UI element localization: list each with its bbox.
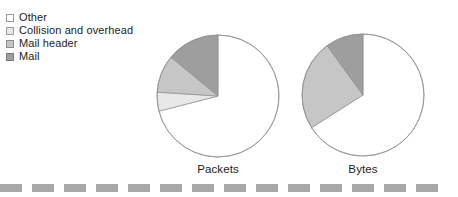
dash-segment	[224, 184, 246, 192]
footer-dashed-rule	[0, 184, 458, 192]
dash-segment	[352, 184, 374, 192]
pie-caption-bytes: Bytes	[283, 163, 443, 175]
legend: Other Collision and overhead Mail header…	[6, 11, 156, 63]
legend-label-other: Other	[19, 11, 47, 24]
pie-caption-packets: Packets	[138, 163, 298, 175]
dash-segment	[128, 184, 150, 192]
pie-packets-svg	[156, 34, 280, 158]
dash-segment	[192, 184, 214, 192]
dash-segment	[416, 184, 438, 192]
legend-item-mail-header: Mail header	[6, 37, 156, 50]
legend-swatch-mail-header	[6, 40, 14, 48]
figure-root: Other Collision and overhead Mail header…	[0, 0, 458, 197]
legend-item-collision-and-overhead: Collision and overhead	[6, 24, 156, 37]
dash-segment	[160, 184, 182, 192]
legend-item-other: Other	[6, 11, 156, 24]
legend-item-mail: Mail	[6, 50, 156, 63]
dash-segment	[256, 184, 278, 192]
legend-swatch-other	[6, 14, 14, 22]
dash-segment	[384, 184, 406, 192]
legend-swatch-mail	[6, 53, 14, 61]
legend-label-mail: Mail	[19, 50, 40, 63]
dash-segment	[32, 184, 54, 192]
dash-segment	[64, 184, 86, 192]
pie-chart-packets	[156, 34, 280, 158]
legend-label-collision-and-overhead: Collision and overhead	[19, 24, 133, 37]
legend-swatch-collision-and-overhead	[6, 27, 14, 35]
dash-segment	[96, 184, 118, 192]
legend-label-mail-header: Mail header	[19, 37, 78, 50]
pie-chart-bytes	[301, 33, 425, 157]
dash-segment	[320, 184, 342, 192]
dash-segment	[288, 184, 310, 192]
pie-bytes-svg	[301, 33, 425, 157]
dash-segment	[0, 184, 22, 192]
